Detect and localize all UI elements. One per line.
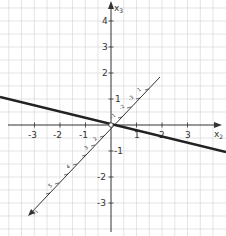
x2-arrow-icon: [214, 122, 222, 128]
x2-tick-label: -2: [53, 130, 62, 140]
x3-tick-label: 4: [102, 16, 108, 26]
x3-tick-label: 2: [102, 68, 108, 78]
x2-axis-label: x2: [214, 129, 223, 140]
x2-tick-label: -1: [79, 130, 88, 140]
x3-tick-label: -1: [114, 146, 123, 156]
x1-tick-label: -1: [109, 112, 117, 120]
x3-tick-label: 3: [102, 42, 108, 52]
x1-tick-label: -3: [127, 94, 135, 102]
x1-axis: x1 -1 -2 -3 1 2 3 4 5: [28, 77, 160, 216]
x3-tick-label: -3: [97, 198, 106, 208]
x1-tick-label: -2: [118, 103, 126, 111]
x1-axis-label: x1: [30, 207, 39, 216]
x1-tick-label: 2: [92, 135, 98, 142]
x1-tick-label: 3: [83, 144, 89, 151]
x2-tick-label: -3: [28, 130, 37, 140]
x1-tick-label: 5: [47, 182, 53, 189]
x3-tick-label: -2: [97, 172, 106, 182]
diagram-svg: x2 -3 -2 -1 1 2 3 x3 4 3 2: [0, 0, 226, 236]
x3-tick-label: 1: [115, 94, 121, 104]
x3-axis-label: x3: [114, 3, 123, 14]
x2-tick-label: 3: [185, 130, 191, 140]
origin-point: [109, 123, 113, 127]
coordinate-diagram: x2 -3 -2 -1 1 2 3 x3 4 3 2: [0, 0, 226, 236]
